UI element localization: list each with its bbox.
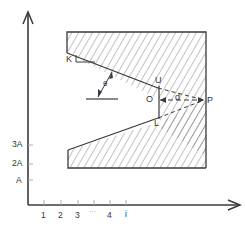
y-tick-label-3a: 3A <box>12 140 22 149</box>
label-d: d <box>175 93 180 102</box>
label-k: K <box>66 55 72 64</box>
x-tick-label-2: 2 <box>58 211 63 220</box>
diagram-svg <box>0 0 245 233</box>
label-l: L <box>154 119 159 128</box>
x-tick-label-dots: ··· <box>89 208 96 215</box>
x-tick-label-4: 4 <box>107 211 112 220</box>
label-theta: θ <box>103 80 107 88</box>
x-tick-label-3: 3 <box>75 211 80 220</box>
lower-hatched-region <box>68 100 206 168</box>
diagram-canvas: K θ U O d P L 3A 2A A 1 2 3 ··· 4 i <box>0 0 245 233</box>
x-tick-label-1: 1 <box>41 211 46 220</box>
y-tick-label-2a: 2A <box>12 159 22 168</box>
label-u: U <box>155 76 162 85</box>
label-o: O <box>146 95 153 104</box>
x-tick-label-i: i <box>125 210 127 219</box>
y-tick-label-a: A <box>16 176 22 185</box>
label-p: P <box>207 96 213 105</box>
